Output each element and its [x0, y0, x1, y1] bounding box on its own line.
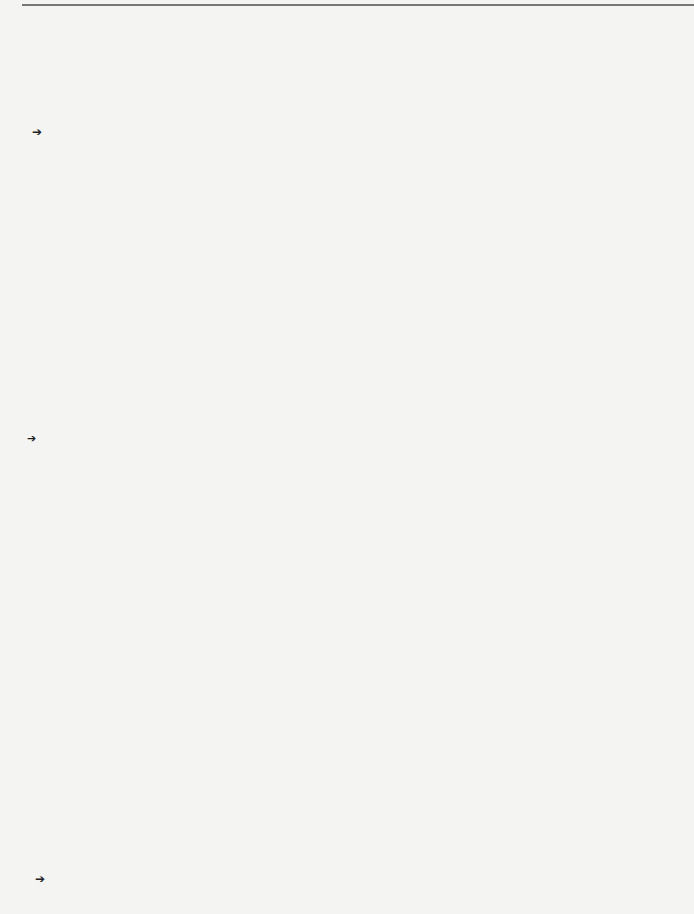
gssp-zanclean: ➔ [35, 872, 45, 886]
arrow-right-icon: ➔ [35, 872, 45, 886]
arrow-right-icon: ➔ [27, 432, 36, 444]
arrow-right-icon: ➔ [32, 125, 42, 139]
top-rule [22, 4, 694, 6]
gssp-gelasian: ➔ [32, 125, 42, 139]
gssp-piacenzian: ➔ [27, 432, 36, 445]
correlation-lines [255, 125, 330, 895]
astronomical-curves [320, 125, 530, 895]
